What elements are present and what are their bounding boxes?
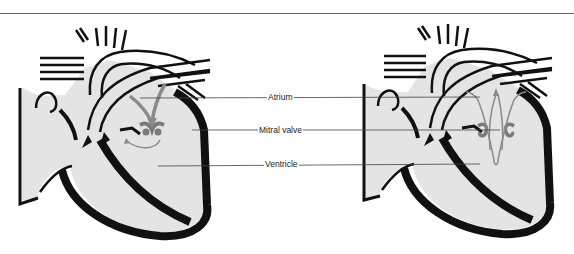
ventricle-label: Ventricle [264, 159, 299, 169]
left-heart-illustration [20, 26, 210, 236]
right-heart-illustration [364, 24, 552, 234]
atrium-label: Atrium [267, 92, 294, 102]
mitral-valve-label: Mitral valve [258, 125, 303, 135]
